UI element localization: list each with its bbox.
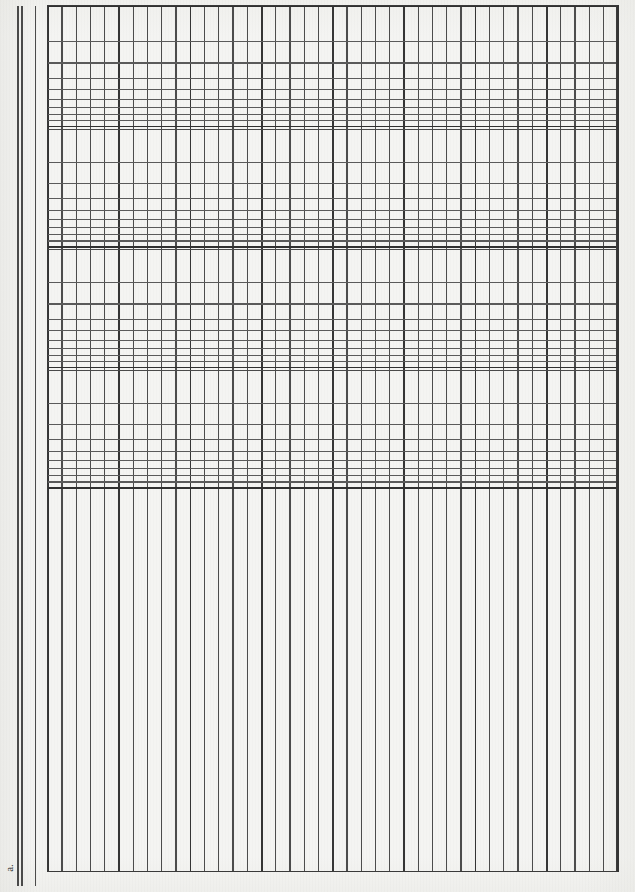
log-minor-grid-line (47, 361, 617, 362)
vertical-grid-line (161, 5, 162, 872)
vertical-grid-line (104, 5, 105, 872)
vertical-grid-line (332, 5, 334, 872)
vertical-grid-line (289, 5, 290, 872)
vertical-grid-line (574, 5, 575, 872)
decade-grid-line-companion (47, 370, 617, 371)
corner-label: a. (3, 860, 15, 876)
vertical-grid-line (403, 5, 405, 872)
log-minor-grid-line (47, 403, 617, 404)
log-minor-grid-line (47, 120, 617, 121)
vertical-grid-line (418, 5, 419, 872)
log-minor-grid-line (47, 330, 617, 331)
logarithmic-ruling-layer (47, 5, 617, 487)
log-minor-grid-line (47, 162, 617, 163)
log-minor-grid-line (47, 348, 617, 349)
vertical-grid-line (475, 5, 477, 872)
log-minor-grid-line (47, 210, 617, 211)
vertical-grid-line (275, 5, 276, 872)
vertical-grid-line (517, 5, 518, 872)
vertical-grid-line (446, 5, 447, 872)
log-minor-grid-line (47, 219, 617, 220)
log-minor-grid-line (47, 340, 617, 341)
vertical-grid-line (304, 5, 305, 872)
vertical-grid-line (603, 5, 604, 872)
decade-grid-line (47, 126, 617, 128)
vertical-grid-line (389, 5, 390, 872)
vertical-grid-line (460, 5, 461, 872)
decade-grid-line-companion (47, 249, 617, 250)
log-minor-grid-line (47, 460, 617, 461)
vertical-grid-line (190, 5, 192, 872)
margin-rule-outer-b (21, 6, 23, 886)
vertical-ruling-layer (47, 5, 617, 872)
log-band-baseline (47, 487, 617, 489)
vertical-grid-line (133, 5, 134, 872)
log-minor-grid-line (47, 319, 617, 320)
log-minor-grid-line (47, 227, 617, 228)
vertical-grid-line (247, 5, 248, 872)
vertical-grid-line (617, 5, 619, 872)
log-minor-grid-line (47, 89, 617, 90)
vertical-grid-line (76, 5, 77, 872)
vertical-grid-line (560, 5, 561, 872)
log-minor-grid-line (47, 99, 617, 100)
log-minor-grid-line (47, 424, 617, 425)
vertical-grid-line (118, 5, 120, 872)
log-minor-grid-line (47, 234, 617, 235)
vertical-grid-line (218, 5, 219, 872)
log-minor-grid-line (47, 439, 617, 440)
vertical-grid-line (147, 5, 148, 872)
vertical-grid-line (589, 5, 590, 872)
vertical-grid-line (61, 5, 62, 872)
vertical-grid-line (90, 5, 91, 872)
decade-grid-line (47, 246, 617, 248)
graph-paper-page: a. (0, 0, 635, 892)
log-minor-grid-line (47, 107, 617, 108)
vertical-grid-line (318, 5, 319, 872)
log-minor-grid-line (47, 282, 617, 283)
vertical-grid-line (432, 5, 433, 872)
vertical-grid-line (47, 5, 49, 872)
log-minor-grid-line (47, 198, 617, 199)
vertical-grid-line (232, 5, 233, 872)
vertical-grid-line (346, 5, 347, 872)
grid-outer-frame (47, 5, 617, 872)
decade-grid-line (47, 367, 617, 369)
log-minor-grid-line (47, 114, 617, 115)
log-minor-grid-line (47, 78, 617, 79)
vertical-grid-line (546, 5, 548, 872)
vertical-grid-line (503, 5, 504, 872)
vertical-grid-line (361, 5, 362, 872)
log-minor-grid-line (47, 62, 617, 63)
vertical-grid-line (532, 5, 533, 872)
margin-rule-inner (35, 6, 36, 886)
decade-grid-line-companion (47, 129, 617, 130)
margin-rule-outer-a (17, 6, 19, 886)
log-minor-grid-line (47, 451, 617, 452)
log-minor-grid-line (47, 475, 617, 476)
log-minor-grid-line (47, 41, 617, 42)
log-minor-grid-line (47, 468, 617, 469)
vertical-grid-line (175, 5, 176, 872)
decade-grid-line (47, 5, 617, 7)
log-minor-grid-line (47, 303, 617, 304)
log-minor-grid-line (47, 355, 617, 356)
vertical-grid-line (489, 5, 490, 872)
log-minor-grid-line (47, 240, 617, 241)
log-minor-grid-line (47, 481, 617, 482)
log-minor-grid-line (47, 183, 617, 184)
vertical-grid-line (204, 5, 205, 872)
graph-grid-area (47, 5, 617, 872)
vertical-grid-line (261, 5, 263, 872)
vertical-grid-line (375, 5, 376, 872)
